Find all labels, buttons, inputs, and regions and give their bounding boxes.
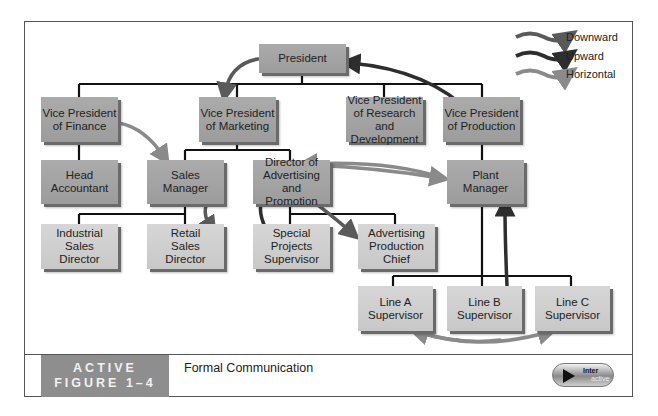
interactive-button[interactable]: Inter active [552, 363, 614, 387]
box-line-c-supervisor: Line C Supervisor [535, 286, 610, 331]
box-president: President [259, 44, 346, 73]
figure-label-line1: ACTIVE [41, 361, 169, 376]
box-retail-sales-director: Retail Sales Director [147, 224, 224, 269]
box-head-accountant: Head Accountant [41, 160, 118, 204]
box-sales-manager: Sales Manager [147, 160, 224, 204]
legend-horizontal-arrow-icon [516, 71, 568, 78]
box-vp-marketing: Vice President of Marketing [199, 97, 276, 142]
legend-arrows [516, 34, 568, 78]
legend-downward-arrow-icon [516, 34, 568, 41]
box-vp-finance: Vice President of Finance [41, 97, 118, 142]
legend-upward-arrow-icon [516, 53, 568, 60]
legend-downward-label: Downward [566, 31, 618, 43]
box-special-projects-supervisor: Special Projects Supervisor [253, 224, 330, 269]
box-line-a-supervisor: Line A Supervisor [358, 286, 433, 331]
box-plant-manager: Plant Manager [447, 160, 524, 204]
figure-label: ACTIVE FIGURE 1–4 [41, 355, 169, 397]
interactive-label-line1: Inter [583, 367, 598, 374]
box-advertising-production-chief: Advertising Production Chief [358, 224, 435, 269]
box-vp-production: Vice President of Production [443, 97, 520, 142]
legend-upward-label: Upward [566, 50, 604, 62]
box-director-advertising: Director of Advertising and Promotion [253, 160, 330, 204]
interactive-label-line2: active [591, 375, 609, 382]
figure-title: Formal Communication [184, 361, 313, 375]
box-vp-research: Vice President of Research and Developme… [346, 97, 423, 142]
box-industrial-sales-director: Industrial Sales Director [41, 224, 118, 269]
box-line-b-supervisor: Line B Supervisor [447, 286, 522, 331]
play-icon [563, 369, 575, 383]
legend-horizontal-label: Horizontal [566, 68, 616, 80]
figure-label-line2: FIGURE 1–4 [41, 376, 169, 391]
